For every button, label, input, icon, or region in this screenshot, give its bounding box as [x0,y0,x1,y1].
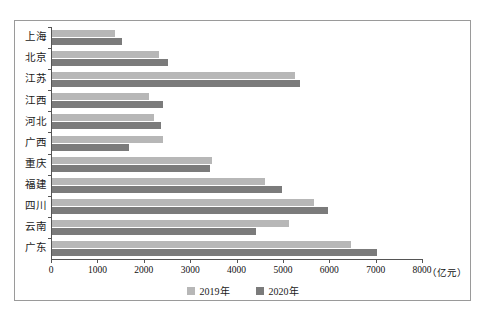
y-axis-label: 四川 [15,196,49,217]
bar-series-2019 [52,157,212,164]
bar-series-2020 [52,38,122,45]
y-axis-category-labels: 上海北京江苏江西河北广西重庆福建四川云南广东 [15,27,49,259]
x-axis-tick-label: 6000 [320,265,339,275]
bar-series-2020 [52,207,328,214]
legend-item[interactable]: 2019年 [187,283,230,298]
x-axis-tick-mark [190,259,191,263]
y-axis-tick-mark [48,69,52,70]
y-axis-label: 北京 [15,48,49,69]
bar-series-2019 [52,93,149,100]
y-axis-label: 江苏 [15,69,49,90]
bar-group [52,111,423,132]
y-axis-tick-mark [48,217,52,218]
x-axis-tick-label: 4000 [227,265,246,275]
y-axis-tick-mark [48,27,52,28]
bar-chart-figure: 上海北京江苏江西河北广西重庆福建四川云南广东 01000200030004000… [14,20,471,301]
legend-item[interactable]: 2020年 [256,283,299,298]
legend-swatch-icon [256,287,264,295]
y-axis-label: 广东 [15,238,49,259]
bar-series-2019 [52,51,159,58]
legend-label: 2019年 [200,283,230,298]
plot-area [51,27,423,260]
bar-group [52,48,423,69]
y-axis-tick-mark [48,48,52,49]
x-axis-tick-label: 3000 [181,265,200,275]
bar-group [52,217,423,238]
x-axis-tick-mark [97,259,98,263]
x-axis-tick-mark [51,259,52,263]
chart-legend: 2019年2020年 [15,283,470,298]
y-axis-label: 重庆 [15,154,49,175]
y-axis-label: 云南 [15,217,49,238]
x-axis-tick-mark [422,259,423,263]
y-axis-tick-mark [48,111,52,112]
x-axis-tick-label: 5000 [273,265,292,275]
bar-series-2020 [52,122,161,129]
legend-label: 2020年 [269,283,299,298]
y-axis-tick-mark [48,132,52,133]
bar-series-2020 [52,228,256,235]
bar-rows [52,27,423,259]
x-axis-unit-label: （亿元） [427,265,467,279]
y-axis-tick-mark [48,90,52,91]
bar-series-2020 [52,186,282,193]
bar-series-2019 [52,72,295,79]
bar-group [52,238,423,259]
bar-series-2020 [52,165,210,172]
x-axis-tick-mark [144,259,145,263]
x-axis-tick-mark [283,259,284,263]
bar-series-2019 [52,241,351,248]
bar-series-2020 [52,249,377,256]
bar-series-2019 [52,220,289,227]
bar-group [52,69,423,90]
x-axis-tick-mark [237,259,238,263]
bar-group [52,196,423,217]
bar-group [52,154,423,175]
bar-series-2020 [52,144,129,151]
bar-series-2019 [52,199,314,206]
y-axis-label: 广西 [15,132,49,153]
x-axis-tick-label: 2000 [134,265,153,275]
y-axis-tick-mark [48,175,52,176]
y-axis-label: 河北 [15,111,49,132]
y-axis-label: 福建 [15,175,49,196]
y-axis-tick-mark [48,154,52,155]
x-axis-tick-mark [329,259,330,263]
bar-group [52,175,423,196]
bar-series-2020 [52,101,163,108]
x-axis-tick-label: 7000 [366,265,385,275]
x-axis: 010002000300040005000600070008000 [51,259,422,279]
x-axis-tick-label: 1000 [88,265,107,275]
bar-series-2019 [52,30,115,37]
bar-series-2019 [52,114,154,121]
bar-group [52,90,423,111]
x-axis-tick-mark [376,259,377,263]
y-axis-tick-mark [48,196,52,197]
bar-series-2020 [52,80,300,87]
y-axis-label: 江西 [15,90,49,111]
plot-wrapper: 上海北京江苏江西河北广西重庆福建四川云南广东 01000200030004000… [15,21,470,300]
bar-series-2019 [52,136,163,143]
bar-group [52,132,423,153]
y-axis-tick-mark [48,238,52,239]
y-axis-label: 上海 [15,27,49,48]
bar-group [52,27,423,48]
bar-series-2019 [52,178,265,185]
bar-series-2020 [52,59,168,66]
x-axis-tick-label: 0 [49,265,54,275]
legend-swatch-icon [187,287,195,295]
